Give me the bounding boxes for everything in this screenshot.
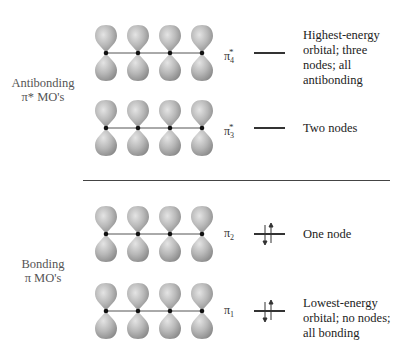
orbital-row-pi3star — [95, 100, 213, 156]
description-pi2: One node — [303, 227, 403, 242]
orbital-subscript: 1 — [230, 310, 234, 319]
orbital-subscript: 2 — [230, 233, 234, 242]
orbital-subscript: 4 — [230, 56, 234, 65]
energy-level-pi3star — [254, 127, 285, 129]
description-line: all bonding — [303, 326, 403, 341]
energy-level-pi2 — [254, 233, 285, 235]
energy-level-pi4star — [254, 52, 285, 54]
orbital-row-pi1 — [95, 283, 213, 339]
description-line: Lowest-energy — [303, 296, 403, 311]
description-pi4star: Highest-energy orbital; three nodes; all… — [303, 28, 403, 88]
description-line: Two nodes — [303, 121, 403, 136]
orbital-row-pi4star — [95, 25, 213, 81]
orbital-superscript: * — [229, 122, 234, 132]
description-line: nodes; all — [303, 58, 403, 73]
description-line: antibonding — [303, 73, 403, 88]
orbital-label-pi3star: π3* — [224, 121, 234, 142]
orbital-subscript: 3 — [230, 131, 234, 140]
energy-level-pi1 — [254, 310, 285, 312]
orbital-superscript: * — [229, 47, 234, 57]
description-line: orbital; no nodes; — [303, 311, 403, 326]
description-pi1: Lowest-energy orbital; no nodes; all bon… — [303, 296, 403, 341]
description-pi3star: Two nodes — [303, 121, 403, 136]
description-line: Highest-energy — [303, 28, 403, 43]
orbital-label-pi2: π2 — [224, 227, 234, 244]
description-line: One node — [303, 227, 403, 242]
orbital-row-pi2 — [95, 206, 213, 262]
description-line: orbital; three — [303, 43, 403, 58]
orbital-label-pi4star: π4* — [224, 46, 234, 67]
orbital-label-pi1: π1 — [224, 304, 234, 321]
